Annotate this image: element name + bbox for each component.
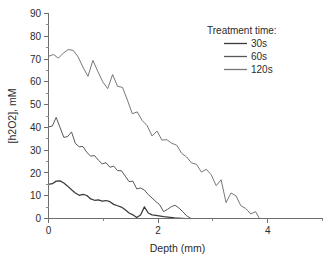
y-axis-title: [h2O2], mM [6, 89, 18, 144]
y-tick-label-7: 70 [30, 54, 42, 65]
y-tick-label-6: 60 [30, 76, 42, 87]
series-line-60s [49, 117, 191, 218]
y-tick-label-4: 40 [30, 122, 42, 133]
x-tick-label-0: 0 [46, 225, 52, 236]
series-line-30s [49, 181, 186, 219]
legend-title: Treatment time: [207, 25, 277, 36]
x-tick-label-1: 2 [155, 225, 161, 236]
y-tick-label-8: 80 [30, 31, 42, 42]
series-group [49, 49, 260, 218]
y-tick-label-2: 20 [30, 168, 42, 179]
legend-label-120s: 120s [251, 64, 273, 75]
line-chart-canvas: 0102030405060708090 024 [h2O2], mM Depth… [0, 0, 334, 263]
legend: Treatment time: 30s60s120s [207, 25, 277, 75]
y-tick-label-3: 30 [30, 145, 42, 156]
y-tick-label-1: 10 [30, 190, 42, 201]
y-tick-label-0: 0 [35, 213, 41, 224]
x-axis-ticks: 024 [46, 219, 323, 236]
axes-group [49, 14, 323, 219]
y-tick-label-9: 90 [30, 8, 42, 19]
chart-figure: 0102030405060708090 024 [h2O2], mM Depth… [0, 0, 334, 263]
y-tick-label-5: 50 [30, 99, 42, 110]
legend-label-60s: 60s [251, 51, 267, 62]
x-axis-title: Depth (mm) [150, 242, 205, 254]
y-axis-ticks: 0102030405060708090 [30, 8, 49, 224]
x-tick-label-2: 4 [265, 225, 271, 236]
series-line-120s [49, 49, 260, 218]
legend-label-30s: 30s [251, 38, 267, 49]
